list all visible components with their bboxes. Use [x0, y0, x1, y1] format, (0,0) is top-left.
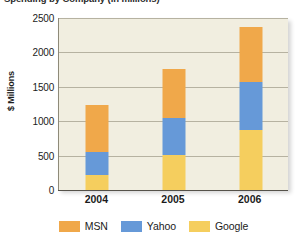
- stacked-bar-chart: $ Millions 05001000150020002500 20042005…: [0, 0, 307, 248]
- y-axis-tick-labels: 05001000150020002500: [16, 18, 54, 190]
- y-tick-label: 500: [16, 150, 54, 161]
- chart-legend: MSNYahooGoogle: [0, 220, 307, 232]
- y-axis-title: $ Millions: [6, 59, 16, 123]
- legend-item-yahoo[interactable]: Yahoo: [121, 220, 176, 232]
- legend-label: MSN: [85, 220, 108, 232]
- bar-2004[interactable]: [86, 105, 109, 190]
- y-tick-label: 1000: [16, 116, 54, 127]
- bar-segment-google[interactable]: [239, 130, 262, 190]
- plot-area: [58, 18, 288, 190]
- y-tick-label: 0: [16, 185, 54, 196]
- bar-2005[interactable]: [163, 69, 186, 190]
- y-tick-label: 2000: [16, 47, 54, 58]
- bar-segment-yahoo[interactable]: [86, 152, 109, 175]
- legend-swatch-icon: [121, 221, 142, 232]
- bar-segment-google[interactable]: [86, 175, 109, 190]
- legend-label: Yahoo: [147, 220, 176, 232]
- bar-segment-msn[interactable]: [239, 27, 262, 82]
- legend-swatch-icon: [59, 221, 80, 232]
- x-tick-label: 2006: [220, 193, 280, 205]
- legend-swatch-icon: [189, 221, 210, 232]
- bar-segment-yahoo[interactable]: [163, 118, 186, 155]
- bar-segment-msn[interactable]: [163, 69, 186, 118]
- gridline: [59, 18, 288, 19]
- y-tick-label: 1500: [16, 81, 54, 92]
- bar-segment-msn[interactable]: [86, 105, 109, 152]
- x-tick-label: 2005: [143, 193, 203, 205]
- bar-segment-yahoo[interactable]: [239, 82, 262, 130]
- x-axis-tick-labels: 200420052006: [58, 193, 288, 209]
- bar-segment-google[interactable]: [163, 155, 186, 190]
- legend-label: Google: [215, 220, 248, 232]
- legend-item-google[interactable]: Google: [189, 220, 248, 232]
- y-tick-label: 2500: [16, 13, 54, 24]
- x-tick-label: 2004: [66, 193, 126, 205]
- bar-2006[interactable]: [239, 27, 262, 190]
- legend-item-msn[interactable]: MSN: [59, 220, 108, 232]
